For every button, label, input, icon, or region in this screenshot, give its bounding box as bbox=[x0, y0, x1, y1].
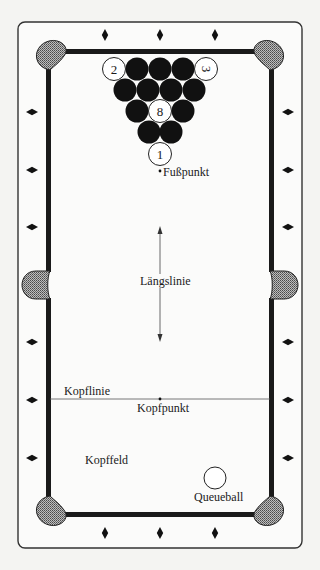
foot-spot-dot bbox=[159, 170, 162, 173]
solid-ball bbox=[160, 79, 183, 102]
solid-ball bbox=[138, 121, 161, 144]
numbered-ball-2: 2 bbox=[103, 58, 126, 81]
rail-left-lower bbox=[46, 298, 51, 498]
svg-text:3: 3 bbox=[199, 66, 214, 73]
svg-text:2: 2 bbox=[111, 62, 118, 77]
svg-text:8: 8 bbox=[157, 104, 164, 119]
head-spot-label: Kopfpunkt bbox=[137, 402, 189, 414]
solid-ball bbox=[149, 58, 172, 81]
numbered-ball-3: 3 bbox=[195, 58, 218, 81]
solid-ball bbox=[183, 79, 206, 102]
rail-top bbox=[64, 49, 256, 54]
solid-ball bbox=[126, 58, 149, 81]
solid-ball bbox=[160, 121, 183, 144]
cue-ball bbox=[204, 467, 226, 489]
rail-bottom bbox=[64, 512, 256, 517]
head-string-label: Kopflinie bbox=[64, 385, 110, 397]
kitchen-label: Kopffeld bbox=[85, 454, 128, 466]
solid-ball bbox=[172, 58, 195, 81]
solid-ball bbox=[137, 79, 160, 102]
rail-right-lower bbox=[269, 298, 274, 498]
solid-ball bbox=[172, 100, 195, 123]
cue-ball-label: Queueball bbox=[194, 491, 243, 503]
svg-text:1: 1 bbox=[157, 147, 164, 162]
rail-left-upper bbox=[46, 68, 51, 272]
solid-ball bbox=[114, 79, 137, 102]
long-string-label: Längslinie bbox=[140, 274, 191, 288]
pocket-side-left bbox=[22, 271, 50, 299]
head-spot-dot bbox=[159, 398, 162, 401]
pool-table-diagram: 2381 Fußpunkt Längslinie Kopflinie Kopfp… bbox=[0, 0, 320, 570]
foot-spot-label: Fußpunkt bbox=[163, 166, 209, 178]
solid-ball bbox=[126, 100, 149, 123]
rail-right-upper bbox=[269, 68, 274, 272]
numbered-ball-1: 1 bbox=[149, 143, 172, 166]
numbered-ball-8: 8 bbox=[149, 100, 172, 123]
pocket-side-right bbox=[270, 271, 298, 299]
